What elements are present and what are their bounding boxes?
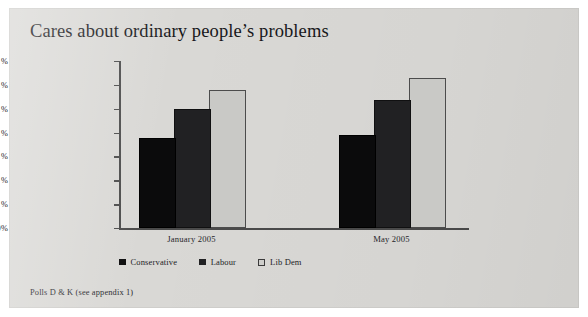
y-axis-tick-label: 60 %: [0, 80, 8, 89]
legend-swatch-icon: [199, 259, 206, 266]
bar-lib-dem-may-2005: [409, 78, 446, 228]
legend-label: Lib Dem: [270, 257, 302, 267]
y-axis-tick: [114, 85, 119, 86]
legend-swatch-icon: [119, 259, 126, 266]
bar-labour-january-2005: [174, 109, 211, 228]
y-axis-tick-label: 50 %: [0, 104, 8, 113]
y-axis-tick: [114, 61, 119, 62]
y-axis-line: [119, 61, 121, 229]
legend-item-conservative: Conservative: [119, 257, 177, 267]
y-axis-tick: [114, 133, 119, 134]
y-axis-tick: [114, 156, 119, 157]
y-axis-tick: [114, 204, 119, 205]
y-axis-tick-label: 20 %: [0, 176, 8, 185]
y-axis-tick-label: 10 %: [0, 200, 8, 209]
y-axis-tick-label: 30 %: [0, 152, 8, 161]
chart-legend: ConservativeLabourLib Dem: [119, 257, 302, 267]
y-axis-tick-label: 40 %: [0, 128, 8, 137]
y-axis-tick-label: 70 %: [0, 57, 8, 66]
bar-lib-dem-january-2005: [209, 90, 246, 228]
bar-conservative-may-2005: [339, 135, 376, 228]
legend-label: Labour: [211, 257, 236, 267]
source-footnote: Polls D & K (see appendix 1): [30, 288, 133, 297]
legend-swatch-icon: [258, 259, 265, 266]
x-axis-label-may-2005: May 2005: [339, 234, 444, 244]
legend-item-labour: Labour: [199, 257, 236, 267]
x-axis-label-january-2005: January 2005: [139, 234, 244, 244]
y-axis-tick: [114, 228, 119, 229]
x-axis-line: [119, 228, 469, 230]
y-axis-tick: [114, 180, 119, 181]
y-axis-tick-label: 0%: [0, 224, 8, 233]
figure-panel: Cares about ordinary people’s problems 0…: [9, 8, 579, 308]
legend-label: Conservative: [131, 257, 178, 267]
bar-conservative-january-2005: [139, 138, 176, 228]
bar-labour-may-2005: [374, 100, 411, 228]
y-axis-tick: [114, 109, 119, 110]
legend-item-lib-dem: Lib Dem: [258, 257, 302, 267]
